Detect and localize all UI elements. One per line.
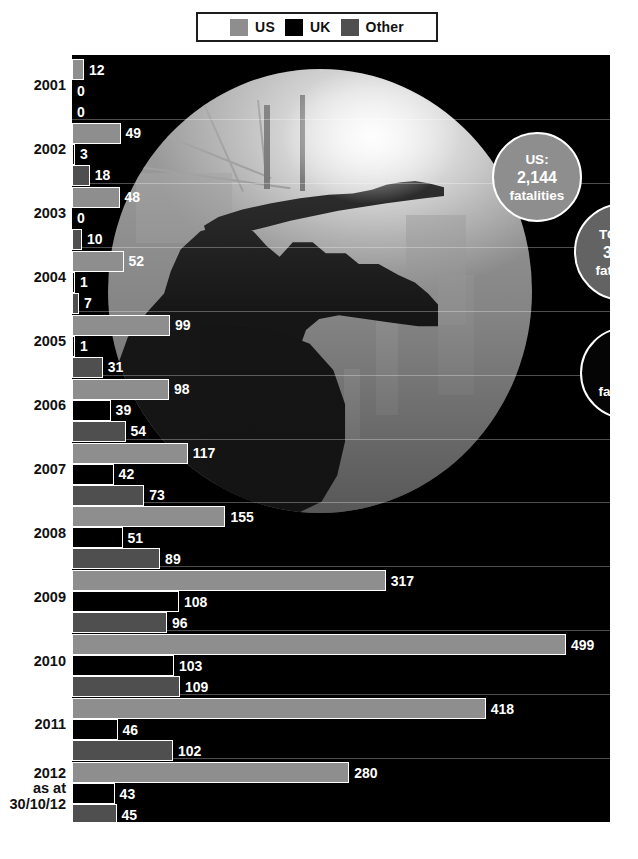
year-label-line: 2012 [0,766,66,782]
soldier-leg-silhouette [200,325,396,513]
bar-row[interactable]: 31 [72,357,123,378]
bar-us[interactable] [72,251,124,272]
bar-row[interactable]: 39 [72,400,131,421]
bar-row[interactable]: 45 [72,804,137,822]
callout-us-number: 2,144 [517,168,557,187]
year-label-2012: 2012as at30/10/12 [0,766,66,813]
bar-uk[interactable] [72,527,123,548]
bar-row[interactable]: 96 [72,612,188,633]
bar-other[interactable] [72,165,90,186]
bar-row[interactable]: 98 [72,379,190,400]
year-label-line: 2007 [0,462,66,477]
chart-legend: US UK Other [196,12,438,42]
bar-other[interactable] [72,740,173,761]
bar-uk[interactable] [72,719,118,740]
fatalities-bar-chart: 1200493184801052179913198395411742731555… [72,55,610,822]
bar-value-label: 418 [491,702,514,716]
bar-other[interactable] [72,229,82,250]
bar-us[interactable] [72,506,225,527]
bar-row[interactable]: 1 [72,336,88,357]
bar-row[interactable]: 117 [72,443,215,464]
bar-row[interactable]: 18 [72,165,110,186]
bar-value-label: 1 [80,275,88,289]
bar-row[interactable]: 73 [72,485,165,506]
bar-row[interactable]: 89 [72,548,181,569]
year-label-2009: 2009 [0,590,66,605]
bar-other[interactable] [72,548,160,569]
bar-row[interactable]: 103 [72,655,202,676]
bar-uk[interactable] [72,272,75,293]
bar-row[interactable]: 0 [72,80,85,101]
bar-row[interactable]: 52 [72,251,144,272]
bar-value-label: 117 [193,446,216,460]
bar-other[interactable] [72,357,103,378]
bar-value-label: 3 [80,147,88,161]
bar-row[interactable]: 51 [72,527,143,548]
bar-row[interactable]: 42 [72,464,134,485]
gridline [72,439,610,440]
year-label-2008: 2008 [0,526,66,541]
bar-row[interactable]: 280 [72,762,378,783]
bar-row[interactable]: 49 [72,123,141,144]
bar-other[interactable] [72,612,167,633]
bar-us[interactable] [72,123,121,144]
bar-other[interactable] [72,293,79,314]
bar-us[interactable] [72,59,84,80]
bar-uk[interactable] [72,144,75,165]
bar-us[interactable] [72,570,386,591]
bar-us[interactable] [72,698,486,719]
bar-other[interactable] [72,485,144,506]
year-label-line: 2001 [0,78,66,93]
legend-entry-uk: UK [285,19,331,36]
bar-us[interactable] [72,187,120,208]
bar-row[interactable]: 317 [72,570,414,591]
bar-us[interactable] [72,762,349,783]
bar-row[interactable]: 48 [72,187,140,208]
legend-label-uk: UK [310,19,331,35]
bar-row[interactable]: 108 [72,591,207,612]
bar-value-label: 73 [149,488,165,502]
bar-value-label: 0 [77,105,85,119]
bar-row[interactable]: 46 [72,719,138,740]
bar-value-label: 43 [120,787,136,801]
bar-row[interactable]: 0 [72,101,85,122]
bar-row[interactable]: 7 [72,293,92,314]
bar-row[interactable]: 102 [72,740,201,761]
bar-row[interactable]: 1 [72,272,88,293]
bar-row[interactable]: 54 [72,421,146,442]
bar-other[interactable] [72,421,126,442]
bar-uk[interactable] [72,400,111,421]
bar-row[interactable]: 3 [72,144,88,165]
bar-uk[interactable] [72,591,179,612]
bar-row[interactable]: 43 [72,783,135,804]
bar-value-label: 51 [128,531,144,545]
callout-total-sub: fatalities [596,262,610,279]
bar-row[interactable]: 109 [72,676,208,697]
year-label-line: as at [0,781,66,797]
bar-row[interactable]: 12 [72,59,104,80]
bar-value-label: 108 [184,595,207,609]
bar-other[interactable] [72,676,180,697]
callout-total-fatalities: TOTAL: 3,215 fatalities [574,203,610,301]
gridline [72,375,610,376]
bar-row[interactable]: 0 [72,208,85,229]
bar-other[interactable] [72,804,117,822]
bar-uk[interactable] [72,783,115,804]
callout-uk-fatalities: UK: 437 fatalities [580,327,610,419]
bar-value-label: 54 [131,424,147,438]
bar-value-label: 103 [179,659,202,673]
bar-us[interactable] [72,443,188,464]
bar-us[interactable] [72,634,566,655]
bar-us[interactable] [72,379,169,400]
bar-us[interactable] [72,315,170,336]
bar-row[interactable]: 155 [72,506,254,527]
legend-swatch-uk-icon [285,19,303,36]
bar-uk[interactable] [72,336,75,357]
bar-row[interactable]: 10 [72,229,102,250]
bar-row[interactable]: 418 [72,698,514,719]
bar-row[interactable]: 499 [72,634,594,655]
bar-value-label: 39 [116,403,132,417]
bar-row[interactable]: 99 [72,315,191,336]
bar-uk[interactable] [72,655,174,676]
bar-uk[interactable] [72,464,114,485]
